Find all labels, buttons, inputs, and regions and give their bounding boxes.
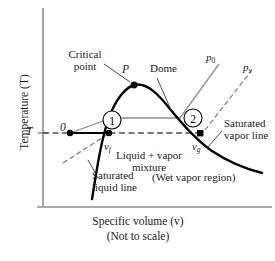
critical-point-label: Critical point bbox=[56, 49, 114, 73]
figure-container: 1 2 Critical point P Dome p0 ps T 0 vf v… bbox=[0, 0, 275, 261]
dome-label: Dome bbox=[150, 63, 177, 75]
state-0-marker bbox=[67, 130, 73, 136]
y-axis-label: Temperature (T) bbox=[18, 47, 30, 177]
x-axis-note: (Not to scale) bbox=[73, 230, 203, 242]
wet-vapor-region-label: (Wet vapor region) bbox=[152, 172, 235, 184]
x-axis-label: Specific volume (v) bbox=[73, 215, 203, 227]
state-1-label: 1 bbox=[109, 115, 115, 127]
v-g-label: vg bbox=[192, 141, 200, 154]
state-2-label: 2 bbox=[190, 113, 196, 125]
saturated-vapor-line-label: Saturated vapor line bbox=[224, 118, 274, 142]
critical-point-marker bbox=[131, 82, 138, 89]
state-2-marker-square bbox=[197, 130, 203, 136]
critical-point-marker-label: P bbox=[122, 63, 129, 75]
state-0-text-label: 0 bbox=[60, 121, 66, 133]
state-1-marker-dot bbox=[106, 130, 112, 136]
dome-leader bbox=[157, 78, 171, 110]
saturation-pressure-ps-label: ps bbox=[243, 62, 251, 75]
isobar-p0-label: p0 bbox=[206, 52, 215, 65]
saturated-vapor-leader bbox=[207, 131, 222, 148]
